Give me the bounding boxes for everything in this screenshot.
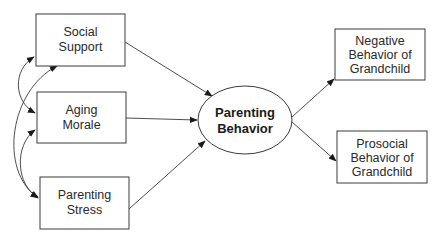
node-label: Negative [355, 34, 404, 48]
node-label: Stress [67, 203, 102, 217]
node-label: Grandchild [352, 165, 412, 179]
node-label: Behavior of [350, 151, 414, 165]
node-label: Grandchild [350, 62, 410, 76]
node-label: Aging [66, 103, 98, 117]
node-aging-morale: Aging Morale [37, 92, 126, 143]
covariance-aging-morale-parenting-stress [20, 130, 38, 197]
path-diagram: Social Support Aging Morale Parenting St… [0, 0, 439, 239]
node-label: Behavior [217, 121, 273, 136]
edge-aging-morale-to-parenting-behavior [126, 118, 197, 120]
node-label: Parenting [58, 188, 112, 202]
node-parenting-stress: Parenting Stress [40, 177, 129, 229]
node-social-support: Social Support [36, 14, 125, 66]
edge-social-support-to-parenting-behavior [125, 42, 212, 96]
covariance-social-support-aging-morale [18, 57, 35, 113]
node-prosocial-behavior-of-grandchild: Prosocial Behavior of Grandchild [337, 131, 427, 183]
edge-parenting-behavior-to-negative-behavior [292, 79, 334, 117]
node-label: Behavior of [348, 48, 412, 62]
node-negative-behavior-of-grandchild: Negative Behavior of Grandchild [335, 29, 425, 80]
edge-parenting-stress-to-parenting-behavior [129, 141, 205, 209]
node-label: Support [59, 40, 103, 54]
edge-parenting-behavior-to-prosocial-behavior [292, 122, 336, 161]
node-label: Morale [62, 118, 100, 132]
node-label: Social [63, 25, 97, 39]
node-label: Prosocial [356, 137, 407, 151]
node-parenting-behavior: Parenting Behavior [198, 86, 292, 154]
node-label: Parenting [215, 105, 275, 120]
